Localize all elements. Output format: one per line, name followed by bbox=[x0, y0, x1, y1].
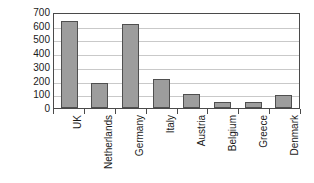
y-axis-tick-labels: 7006005004003002001000 bbox=[24, 13, 50, 109]
x-axis-ticks bbox=[53, 109, 300, 114]
x-axis-label-netherlands: Netherlands bbox=[104, 115, 114, 169]
bar bbox=[153, 79, 170, 108]
bar-slot bbox=[146, 14, 177, 108]
y-tick-label: 100 bbox=[24, 90, 50, 100]
bar-slot bbox=[115, 14, 146, 108]
bar-slot bbox=[268, 14, 299, 108]
bar-slot bbox=[177, 14, 208, 108]
x-axis-label-austria: Austria bbox=[197, 115, 207, 146]
bar bbox=[245, 102, 262, 108]
x-tick bbox=[300, 109, 301, 114]
bar bbox=[122, 24, 139, 108]
bar-chart: EUR/pop 7006005004003002001000 UKNetherl… bbox=[0, 0, 314, 183]
y-tick-label: 0 bbox=[24, 104, 50, 114]
x-label-slot: Italy bbox=[146, 115, 177, 181]
x-tick bbox=[238, 109, 239, 114]
y-tick-label: 400 bbox=[24, 49, 50, 59]
bar-slot bbox=[207, 14, 238, 108]
x-tick bbox=[269, 109, 270, 114]
plot-area bbox=[53, 13, 300, 109]
x-label-slot: Denmark bbox=[269, 115, 300, 181]
bar bbox=[61, 21, 78, 108]
x-tick bbox=[84, 109, 85, 114]
x-tick bbox=[53, 109, 54, 114]
y-tick-label: 600 bbox=[24, 22, 50, 32]
bar-slot bbox=[54, 14, 85, 108]
x-axis-category-labels: UKNetherlandsGermanyItalyAustriaBelgiumG… bbox=[53, 115, 300, 181]
x-tick bbox=[115, 109, 116, 114]
x-axis-label-germany: Germany bbox=[135, 115, 145, 156]
y-tick-label: 300 bbox=[24, 63, 50, 73]
x-axis-label-belgium: Belgium bbox=[228, 115, 238, 151]
bar bbox=[183, 94, 200, 108]
x-tick bbox=[207, 109, 208, 114]
x-axis-label-greece: Greece bbox=[259, 115, 269, 148]
bar-slot bbox=[85, 14, 116, 108]
x-tick bbox=[177, 109, 178, 114]
y-tick-label: 700 bbox=[24, 8, 50, 18]
x-label-slot: Belgium bbox=[207, 115, 238, 181]
x-label-slot: UK bbox=[53, 115, 84, 181]
bar bbox=[275, 95, 292, 108]
bar bbox=[91, 83, 108, 108]
bar-series bbox=[54, 14, 299, 108]
y-tick-label: 500 bbox=[24, 35, 50, 45]
x-tick bbox=[146, 109, 147, 114]
x-label-slot: Germany bbox=[115, 115, 146, 181]
bar-slot bbox=[238, 14, 269, 108]
x-axis-label-uk: UK bbox=[73, 115, 83, 129]
x-axis-label-italy: Italy bbox=[166, 115, 176, 133]
x-axis-label-denmark: Denmark bbox=[290, 115, 300, 156]
bar bbox=[214, 102, 231, 108]
y-tick-label: 200 bbox=[24, 77, 50, 87]
x-label-slot: Netherlands bbox=[84, 115, 115, 181]
x-label-slot: Greece bbox=[238, 115, 269, 181]
x-label-slot: Austria bbox=[177, 115, 208, 181]
